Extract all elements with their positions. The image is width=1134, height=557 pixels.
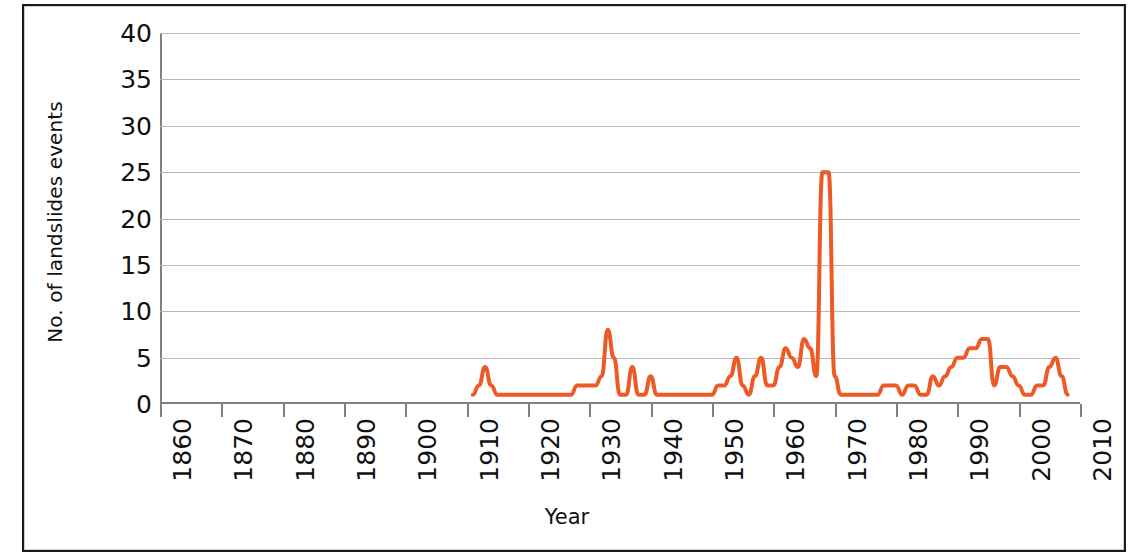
y-tick-label-0: 0 bbox=[136, 392, 152, 417]
x-tick-label-1970: 1970 bbox=[845, 418, 870, 482]
x-tick-label-1980: 1980 bbox=[906, 418, 931, 482]
y-tick-label-5: 5 bbox=[136, 345, 152, 370]
x-tick-mark-1970 bbox=[835, 404, 837, 417]
x-tick-mark-1950 bbox=[712, 404, 714, 417]
x-tick-mark-1990 bbox=[957, 404, 959, 417]
x-tick-label-2010: 2010 bbox=[1090, 418, 1115, 482]
figure-container: No. of landslides events 051015202530354… bbox=[0, 0, 1134, 557]
x-tick-label-1890: 1890 bbox=[354, 418, 379, 482]
y-tick-label-10: 10 bbox=[120, 299, 152, 324]
y-axis-tick-labels: 0510152025303540 bbox=[86, 0, 152, 557]
x-axis-tick-labels: 1860187018801890190019101920193019401950… bbox=[160, 418, 1080, 498]
x-tick-label-1860: 1860 bbox=[170, 418, 195, 482]
y-tick-label-25: 25 bbox=[120, 160, 152, 185]
x-tick-label-1990: 1990 bbox=[967, 418, 992, 482]
x-tick-mark-1980 bbox=[896, 404, 898, 417]
x-tick-mark-1940 bbox=[651, 404, 653, 417]
x-axis-tick-marks bbox=[160, 404, 1080, 418]
x-tick-label-1960: 1960 bbox=[783, 418, 808, 482]
x-axis-title: Year bbox=[0, 505, 1134, 529]
x-tick-label-1900: 1900 bbox=[415, 418, 440, 482]
x-tick-label-1950: 1950 bbox=[722, 418, 747, 482]
x-tick-label-1910: 1910 bbox=[477, 418, 502, 482]
x-tick-mark-1870 bbox=[221, 404, 223, 417]
x-tick-mark-1960 bbox=[773, 404, 775, 417]
x-tick-mark-1930 bbox=[589, 404, 591, 417]
plot-area bbox=[160, 33, 1080, 404]
y-tick-label-35: 35 bbox=[120, 67, 152, 92]
x-tick-label-1920: 1920 bbox=[538, 418, 563, 482]
x-tick-label-1880: 1880 bbox=[293, 418, 318, 482]
x-tick-mark-1900 bbox=[405, 404, 407, 417]
x-tick-mark-2000 bbox=[1019, 404, 1021, 417]
x-tick-label-2000: 2000 bbox=[1029, 418, 1054, 482]
y-tick-label-20: 20 bbox=[120, 206, 152, 231]
x-tick-mark-1880 bbox=[283, 404, 285, 417]
y-tick-label-40: 40 bbox=[120, 21, 152, 46]
x-tick-mark-1920 bbox=[528, 404, 530, 417]
x-tick-label-1940: 1940 bbox=[661, 418, 686, 482]
y-tick-label-30: 30 bbox=[120, 113, 152, 138]
x-tick-mark-1910 bbox=[467, 404, 469, 417]
y-axis-title: No. of landslides events bbox=[43, 72, 67, 372]
x-tick-label-1930: 1930 bbox=[599, 418, 624, 482]
landslide-events-line bbox=[473, 172, 1068, 395]
x-tick-mark-2010 bbox=[1080, 404, 1082, 417]
x-tick-label-1870: 1870 bbox=[231, 418, 256, 482]
x-tick-mark-1860 bbox=[160, 404, 162, 417]
data-series-line bbox=[160, 33, 1080, 404]
y-tick-label-15: 15 bbox=[120, 252, 152, 277]
x-tick-mark-1890 bbox=[344, 404, 346, 417]
